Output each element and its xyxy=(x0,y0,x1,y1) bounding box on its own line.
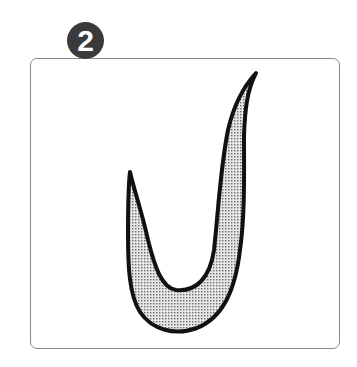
step-number-badge: 2 xyxy=(67,22,104,59)
step-number: 2 xyxy=(77,26,94,56)
hook-shape-icon xyxy=(0,0,357,367)
